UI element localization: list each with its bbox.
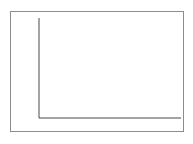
chart-figure <box>0 0 193 144</box>
axis-lines <box>39 18 181 118</box>
chart-canvas <box>0 0 193 144</box>
